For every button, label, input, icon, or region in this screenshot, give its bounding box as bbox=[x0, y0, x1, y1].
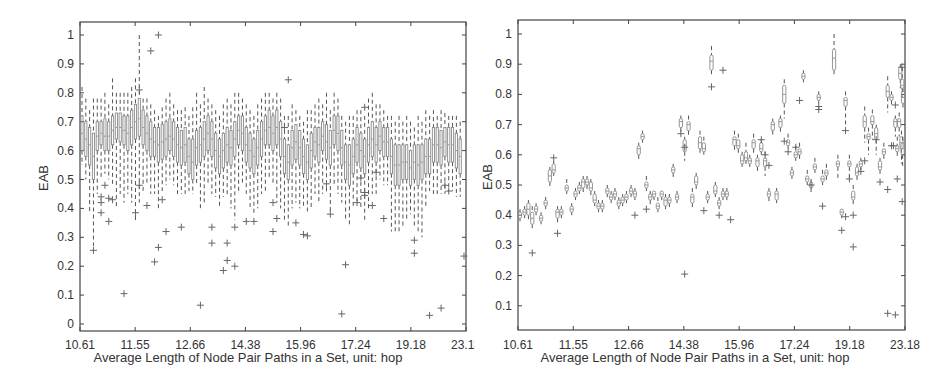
box-item bbox=[752, 134, 755, 155]
box-item bbox=[283, 116, 285, 220]
box-item bbox=[585, 176, 588, 191]
box-item bbox=[222, 104, 224, 196]
box-item bbox=[852, 185, 855, 206]
outlier-plus-marker bbox=[643, 206, 650, 213]
box-item bbox=[302, 122, 304, 209]
y-tick-label: 0.7 bbox=[495, 118, 512, 132]
y-tick-label: 0.9 bbox=[57, 57, 74, 71]
box-item bbox=[687, 116, 690, 137]
y-tick-label: 0.9 bbox=[495, 57, 512, 71]
box-item bbox=[146, 99, 148, 186]
box-item bbox=[127, 93, 129, 194]
box-item bbox=[593, 191, 596, 206]
outlier-plus-marker bbox=[700, 207, 707, 214]
outlier-plus-marker bbox=[224, 240, 231, 247]
outlier-plus-marker bbox=[208, 240, 215, 247]
box-item bbox=[578, 182, 581, 194]
box-item bbox=[375, 104, 377, 194]
box-item bbox=[344, 122, 346, 220]
box-item bbox=[898, 113, 901, 137]
y-tick-label: 0.6 bbox=[495, 148, 512, 162]
outlier-plus-marker bbox=[445, 188, 452, 195]
box-item bbox=[556, 206, 559, 224]
box-item bbox=[548, 167, 551, 188]
box-item bbox=[645, 176, 648, 191]
outlier-plus-marker bbox=[727, 216, 734, 223]
y-axis-title: EAB bbox=[480, 164, 495, 190]
outlier-plus-marker bbox=[785, 148, 792, 155]
outlier-plus-marker bbox=[224, 257, 231, 264]
outlier-plus-marker bbox=[197, 302, 204, 309]
y-tick-label: 0.4 bbox=[57, 201, 74, 215]
box-item bbox=[825, 164, 828, 182]
outlier-plus-marker bbox=[250, 218, 257, 225]
box-item bbox=[432, 110, 434, 194]
box-item bbox=[896, 137, 899, 158]
outlier-plus-marker bbox=[873, 136, 880, 143]
box-item bbox=[89, 110, 91, 214]
box-item bbox=[844, 91, 847, 124]
y-tick-label: 0.3 bbox=[57, 230, 74, 244]
box-item bbox=[886, 76, 889, 112]
box-item bbox=[104, 93, 106, 174]
outlier-plus-marker bbox=[631, 212, 638, 219]
box-item bbox=[436, 116, 438, 194]
box-item bbox=[589, 179, 592, 197]
x-tick-label: 23.18 bbox=[451, 338, 475, 352]
outlier-plus-marker bbox=[101, 182, 108, 189]
right-chart-panel: 0.10.20.30.40.50.60.70.80.9110.6111.5512… bbox=[475, 0, 951, 385]
outlier-plus-marker bbox=[327, 211, 334, 218]
box-item bbox=[203, 87, 205, 203]
outlier-plus-marker bbox=[163, 228, 170, 235]
outlier-plus-marker bbox=[285, 76, 292, 83]
box-item bbox=[531, 206, 534, 230]
box-item bbox=[656, 197, 659, 212]
outlier-plus-marker bbox=[411, 250, 418, 257]
box-item bbox=[196, 93, 198, 185]
outlier-plus-marker bbox=[90, 247, 97, 254]
box-item bbox=[111, 78, 113, 185]
box-item bbox=[539, 212, 542, 224]
box-item bbox=[451, 116, 453, 191]
box-item bbox=[81, 87, 83, 165]
box-item bbox=[901, 88, 904, 109]
outlier-plus-marker bbox=[121, 290, 128, 297]
box-item bbox=[552, 161, 555, 176]
box-item bbox=[806, 170, 809, 185]
box-item bbox=[310, 110, 312, 208]
outlier-plus-marker bbox=[884, 186, 891, 193]
box-item bbox=[96, 99, 98, 194]
box-item bbox=[617, 197, 620, 209]
box-item bbox=[455, 116, 457, 197]
box-item bbox=[629, 185, 632, 197]
box-item bbox=[234, 93, 236, 220]
box-item bbox=[668, 194, 671, 209]
box-item bbox=[798, 143, 801, 161]
y-tick-label: 0.4 bbox=[495, 208, 512, 222]
outlier-plus-marker bbox=[147, 47, 154, 54]
box-item bbox=[725, 188, 728, 200]
box-item bbox=[238, 93, 240, 194]
box-item bbox=[180, 110, 182, 194]
box-item bbox=[337, 99, 339, 194]
box-item bbox=[280, 99, 282, 209]
outlier-plus-marker bbox=[338, 310, 345, 317]
box-item bbox=[695, 173, 698, 191]
outlier-plus-marker bbox=[270, 199, 277, 206]
box-item bbox=[161, 107, 163, 191]
outlier-plus-marker bbox=[208, 224, 215, 231]
y-tick-label: 0.7 bbox=[57, 115, 74, 129]
box-item bbox=[134, 78, 136, 223]
outlier-plus-marker bbox=[243, 218, 250, 225]
box-item bbox=[672, 164, 675, 179]
outlier-plus-marker bbox=[846, 175, 853, 182]
outlier-plus-marker bbox=[354, 199, 361, 206]
outlier-plus-marker bbox=[842, 127, 849, 134]
box-item bbox=[664, 194, 667, 209]
box-item bbox=[714, 182, 717, 197]
outlier-plus-marker bbox=[357, 175, 364, 182]
box-item bbox=[527, 200, 530, 221]
box-item bbox=[890, 91, 893, 106]
box-item bbox=[383, 110, 385, 185]
outlier-plus-marker bbox=[136, 86, 143, 93]
